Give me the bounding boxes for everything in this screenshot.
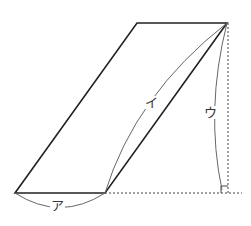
parallelogram-diagram: ア イ ウ [0,0,251,226]
label-a: ア [50,199,65,212]
parallelogram [15,23,227,193]
label-u: ウ [203,106,218,119]
label-i: イ [144,96,159,109]
